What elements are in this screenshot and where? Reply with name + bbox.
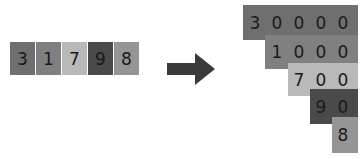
digit: 0: [332, 42, 354, 62]
digit: 0: [332, 97, 354, 117]
right-arrow-icon: [167, 52, 217, 86]
input-digit-1: 1: [36, 42, 61, 75]
digit: 3: [244, 13, 266, 33]
digit: 9: [310, 97, 332, 117]
digit: 1: [266, 42, 288, 62]
input-digit-2: 7: [62, 42, 87, 75]
input-digit-4: 8: [114, 42, 139, 75]
digit: 0: [310, 13, 332, 33]
input-digit-0: 3: [10, 42, 35, 75]
digit: 0: [332, 70, 354, 90]
digit: 0: [310, 70, 332, 90]
digit: 0: [266, 13, 288, 33]
digit: 0: [288, 13, 310, 33]
place-value-row-4: 8: [332, 117, 358, 153]
digit: 8: [332, 125, 354, 145]
digit: 0: [310, 42, 332, 62]
input-digit-3: 9: [88, 42, 113, 75]
digit: 0: [288, 42, 310, 62]
digit: 7: [288, 70, 310, 90]
digit: 0: [332, 13, 354, 33]
